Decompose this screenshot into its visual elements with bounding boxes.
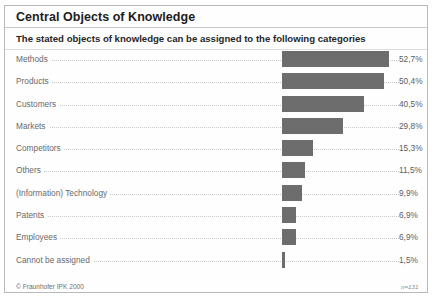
bar-container bbox=[282, 207, 296, 227]
bar bbox=[282, 51, 389, 67]
category-label: Methods bbox=[16, 54, 51, 64]
bar-container bbox=[282, 96, 364, 116]
category-label: Others bbox=[16, 165, 44, 175]
value-label: 6,9% bbox=[399, 232, 418, 242]
bar bbox=[282, 185, 302, 201]
bar bbox=[282, 207, 296, 223]
chart-row: (Information) Technology9,9% bbox=[5, 184, 427, 206]
bar-container bbox=[282, 51, 389, 71]
chart-row: Others11,5% bbox=[5, 161, 427, 183]
category-label: Employees bbox=[16, 232, 60, 242]
chart-row: Cannot be assigned1,5% bbox=[5, 251, 427, 273]
value-label: 50,4% bbox=[399, 76, 423, 86]
bar-container bbox=[282, 229, 296, 249]
chart-row: Markets29,8% bbox=[5, 117, 427, 139]
bar bbox=[282, 229, 296, 245]
category-label: Customers bbox=[16, 99, 59, 109]
bar-container bbox=[282, 162, 305, 182]
bar bbox=[282, 140, 313, 156]
leader-line bbox=[16, 127, 403, 128]
value-label: 1,5% bbox=[399, 255, 418, 265]
bar-container bbox=[282, 73, 384, 93]
value-label: 40,5% bbox=[399, 99, 423, 109]
leader-line bbox=[16, 238, 403, 239]
leader-line bbox=[16, 216, 403, 217]
bar-chart-plot: Methods52,7%Products50,4%Customers40,5%M… bbox=[5, 50, 427, 293]
chart-subtitle: The stated objects of knowledge can be a… bbox=[16, 31, 427, 46]
category-label: Patents bbox=[16, 210, 47, 220]
chart-row: Products50,4% bbox=[5, 72, 427, 94]
value-label: 6,9% bbox=[399, 210, 418, 220]
page-title: Central Objects of Knowledge bbox=[16, 8, 427, 26]
chart-title-bar: Central Objects of Knowledge bbox=[5, 6, 427, 28]
chart-row: Competitors15,3% bbox=[5, 139, 427, 161]
category-label: Markets bbox=[16, 121, 49, 131]
value-label: 15,3% bbox=[399, 143, 423, 153]
chart-row: Patents6,9% bbox=[5, 206, 427, 228]
chart-figure: Central Objects of Knowledge The stated … bbox=[4, 5, 428, 293]
leader-line bbox=[16, 171, 403, 172]
value-label: 52,7% bbox=[399, 54, 423, 64]
value-label: 9,9% bbox=[399, 188, 418, 198]
bar-container bbox=[282, 252, 285, 272]
bar bbox=[282, 73, 384, 89]
category-label: Competitors bbox=[16, 143, 64, 153]
bar-container bbox=[282, 118, 343, 138]
value-label: 11,5% bbox=[399, 165, 422, 175]
bar-container bbox=[282, 140, 313, 160]
category-label: Cannot be assigned bbox=[16, 255, 93, 265]
chart-row: Methods52,7% bbox=[5, 50, 427, 72]
value-label: 29,8% bbox=[399, 121, 423, 131]
chart-row: Employees6,9% bbox=[5, 228, 427, 250]
category-label: (Information) Technology bbox=[16, 188, 110, 198]
chart-footer: © Fraunhofer IPK 2000 n=131 bbox=[5, 279, 427, 292]
chart-subtitle-bar: The stated objects of knowledge can be a… bbox=[5, 28, 427, 50]
bar-container bbox=[282, 185, 302, 205]
chart-row: Customers40,5% bbox=[5, 95, 427, 117]
sample-size-note: n=131 bbox=[401, 283, 418, 290]
copyright-text: © Fraunhofer IPK 2000 bbox=[16, 283, 84, 290]
category-label: Products bbox=[16, 76, 52, 86]
bar bbox=[282, 118, 343, 134]
bar bbox=[282, 96, 364, 112]
bar bbox=[282, 252, 285, 268]
leader-line bbox=[16, 149, 403, 150]
bar bbox=[282, 162, 305, 178]
